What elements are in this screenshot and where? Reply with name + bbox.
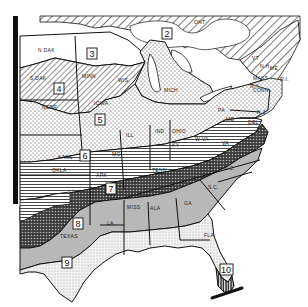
label-del: DEL [248,119,259,125]
label-me: ME [270,65,278,71]
label-wis: WIS [118,77,129,83]
label-ohio: OHIO [172,128,186,134]
label-nebr: NEBR [42,104,57,110]
zone-label-7: 7 [106,183,116,194]
svg-text:7: 7 [109,184,114,194]
svg-text:8: 8 [76,219,81,229]
label-sc: S.C. [208,184,219,190]
label-okla: OKLA [52,167,67,173]
label-ala: ALA [150,205,161,211]
label-tenn: TENN [152,167,167,173]
svg-text:2: 2 [165,29,170,39]
svg-text:3: 3 [90,49,95,59]
zone-map: 2 3 4 5 6 7 8 9 10 ONT N DAK S DAK MINN … [0,0,308,307]
label-fla: FLA [204,232,214,238]
label-ga: GA [184,200,192,206]
svg-text:10: 10 [221,265,231,275]
label-nh: N.H. [260,63,271,69]
label-texas: TEXAS [60,233,78,239]
zone-label-6: 6 [80,150,90,161]
zone-label-10: 10 [220,264,233,275]
zone-label-2: 2 [162,28,172,39]
label-mich: MICH [164,87,178,93]
left-border [13,16,18,204]
label-mass: MASS [253,75,269,81]
label-wva: W VA [195,136,209,142]
label-ark: ARK [96,172,108,178]
label-nj: N.J. [257,109,267,115]
svg-text:6: 6 [83,151,88,161]
zone-label-5: 5 [95,114,105,125]
svg-text:4: 4 [57,84,62,94]
label-ri: R.I. [280,76,289,82]
label-vt: VT [252,55,259,61]
label-pa: PA [218,107,225,113]
label-conn: CONN [253,87,269,93]
label-ndak: N DAK [38,47,55,53]
label-ind: IND [155,128,165,134]
label-md: MD [226,116,234,122]
label-sdak: S DAK [30,75,47,81]
label-nc: N.C. [224,165,235,171]
svg-text:9: 9 [65,258,70,268]
label-kans: KANS [58,154,73,160]
label-ky: KY [172,142,180,148]
label-mo: MO [112,151,121,157]
label-minn: MINN [82,73,96,79]
label-iowa: IOWA [94,100,109,106]
label-va: VA [222,140,229,146]
zone-label-8: 8 [73,218,83,229]
label-miss: MISS [127,204,141,210]
svg-text:5: 5 [98,115,103,125]
label-ont: ONT [194,19,205,25]
zone-label-9: 9 [62,257,72,268]
zone-label-4: 4 [54,83,64,94]
label-la: LA [107,220,114,226]
label-ill: ILL [126,132,134,138]
zone-label-3: 3 [87,48,97,59]
